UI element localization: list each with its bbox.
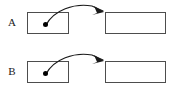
panel-a-target-box (105, 12, 166, 34)
diagram-figure: A B (0, 0, 172, 97)
panel-a: A (0, 0, 172, 48)
panel-b: B (0, 49, 172, 97)
panel-a-source-box (27, 12, 69, 34)
panel-a-label: A (5, 16, 19, 28)
panel-b-source-dot (43, 71, 48, 76)
panel-b-arrow-head (92, 55, 104, 64)
panel-a-arrow-head (92, 6, 104, 15)
panel-b-target-box (105, 61, 166, 83)
panel-a-source-dot (43, 22, 48, 27)
panel-b-label: B (5, 65, 19, 77)
panel-b-source-box (27, 61, 69, 83)
